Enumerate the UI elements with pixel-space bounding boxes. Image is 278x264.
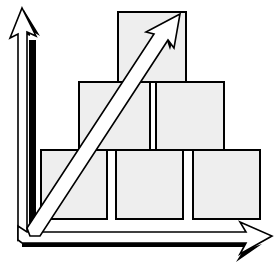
- x-axis-arrow-icon: [18, 222, 272, 262]
- block-bottom-center: [116, 150, 183, 219]
- pyramid-growth-diagram: [0, 0, 278, 264]
- block-middle-right: [156, 82, 224, 150]
- block-bottom-right: [193, 150, 260, 219]
- y-axis-arrow-icon: [10, 8, 40, 240]
